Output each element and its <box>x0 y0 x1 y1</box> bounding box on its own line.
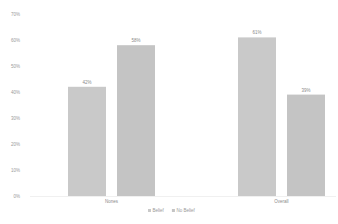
y-tick-label: 60% <box>11 38 20 43</box>
x-axis-categories: NonesOverall <box>105 199 289 204</box>
data-labels: 42%58%61%39% <box>82 30 310 92</box>
legend-label: No Belief <box>176 208 195 213</box>
legend-swatch <box>148 209 151 212</box>
legend: BeliefNo Belief <box>148 208 195 213</box>
bar-belief-overall <box>238 37 276 196</box>
bars <box>68 37 325 196</box>
y-axis: 0%10%20%30%40%50%60%70% <box>11 12 20 199</box>
category-label: Nones <box>105 199 119 204</box>
data-label: 39% <box>301 88 310 93</box>
bar-no-belief-overall <box>287 95 325 196</box>
data-label: 61% <box>252 30 261 35</box>
data-label: 42% <box>82 80 91 85</box>
y-tick-label: 30% <box>11 116 20 121</box>
y-tick-label: 70% <box>11 12 20 17</box>
bar-no-belief-nones <box>117 45 155 196</box>
category-label: Overall <box>274 199 288 204</box>
data-label: 58% <box>131 38 140 43</box>
bar-chart: 0%10%20%30%40%50%60%70% 42%58%61%39% Non… <box>0 0 338 224</box>
legend-swatch <box>172 209 175 212</box>
legend-label: Belief <box>153 208 165 213</box>
y-tick-label: 50% <box>11 64 20 69</box>
y-tick-label: 0% <box>13 194 20 199</box>
bar-belief-nones <box>68 87 106 196</box>
y-tick-label: 40% <box>11 90 20 95</box>
y-tick-label: 10% <box>11 168 20 173</box>
y-tick-label: 20% <box>11 142 20 147</box>
